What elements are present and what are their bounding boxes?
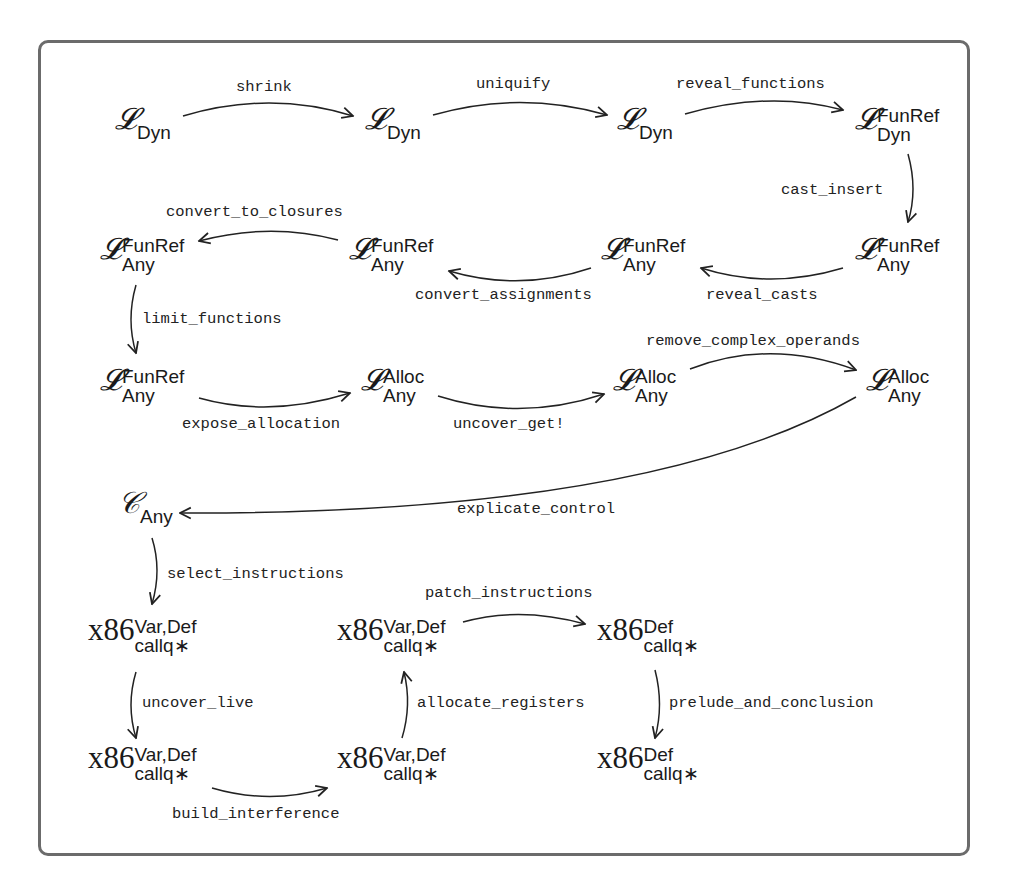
node-superscript: FunRef	[877, 106, 939, 125]
node-superscript: FunRef	[122, 367, 184, 386]
node-L-funref-any-closures: 𝓛FunRefAny	[100, 234, 184, 274]
edge-convert-assignments	[449, 268, 591, 281]
label-expose-allocation: expose_allocation	[182, 415, 340, 433]
label-limit-functions: limit_functions	[142, 310, 282, 328]
node-subscript: Any	[140, 507, 173, 526]
node-base: 𝓛	[115, 101, 137, 136]
node-subscript: callq∗	[135, 764, 197, 783]
edge-allocate-registers	[402, 672, 408, 738]
node-subscript: callq∗	[384, 764, 446, 783]
node-base: 𝓛	[866, 362, 888, 397]
node-x86-def-final: x86Defcallq∗	[597, 742, 699, 783]
edge-uncover-get	[438, 394, 604, 409]
node-L-alloc-any-1: 𝓛AllocAny	[361, 365, 424, 405]
node-superscript: FunRef	[371, 236, 433, 255]
node-base: x86	[88, 740, 135, 775]
node-x86-var-def-interference: x86Var,Defcallq∗	[337, 742, 445, 783]
node-superscript: Def	[644, 617, 699, 636]
edge-build-interference	[212, 788, 327, 797]
node-base: 𝓛	[613, 362, 635, 397]
edge-uncover-live	[131, 672, 136, 738]
edge-uniquify	[433, 103, 607, 116]
node-C-any: 𝒞Any	[118, 488, 173, 526]
label-prelude-and-conclusion: prelude_and_conclusion	[669, 694, 874, 712]
node-subscript: Any	[122, 386, 184, 405]
node-superscript: Def	[644, 745, 699, 764]
node-subscript: Any	[122, 255, 184, 274]
node-base: x86	[597, 740, 644, 775]
node-subscript: Any	[623, 255, 685, 274]
node-base: 𝓛	[100, 362, 122, 397]
node-subscript: callq∗	[644, 764, 699, 783]
node-superscript: FunRef	[877, 236, 939, 255]
node-superscript: FunRef	[623, 236, 685, 255]
node-base: 𝓛	[855, 231, 877, 266]
node-superscript: Var,Def	[135, 745, 197, 764]
edge-remove-complex-operands	[690, 354, 856, 370]
node-base: 𝓛	[601, 231, 623, 266]
node-base: x86	[337, 612, 384, 647]
node-L-funref-any-assign: 𝓛FunRefAny	[349, 234, 433, 274]
node-subscript: Dyn	[639, 123, 673, 142]
node-subscript: Any	[635, 386, 676, 405]
node-subscript: Any	[383, 386, 424, 405]
node-L-funref-any-cast-insert: 𝓛FunRefAny	[855, 234, 939, 274]
edge-expose-allocation	[199, 393, 350, 407]
edge-limit-functions	[131, 285, 136, 353]
node-subscript: Dyn	[877, 125, 939, 144]
node-subscript: callq∗	[644, 636, 699, 655]
node-L-funref-dyn: 𝓛FunRefDyn	[855, 104, 939, 144]
node-x86-def-patched: x86Defcallq∗	[597, 614, 699, 655]
node-subscript: callq∗	[135, 636, 197, 655]
edge-select-instructions	[152, 538, 157, 604]
node-base: x86	[597, 612, 644, 647]
node-x86-var-def-live: x86Var,Defcallq∗	[88, 742, 196, 783]
label-cast-insert: cast_insert	[781, 181, 883, 199]
edge-prelude-and-conclusion	[655, 670, 660, 738]
label-remove-complex-operands: remove_complex_operands	[646, 332, 860, 350]
node-subscript: Any	[371, 255, 433, 274]
node-superscript: FunRef	[122, 236, 184, 255]
edge-shrink	[183, 103, 353, 116]
label-uncover-live: uncover_live	[142, 694, 254, 712]
node-superscript: Alloc	[888, 367, 929, 386]
node-subscript: Dyn	[137, 123, 171, 142]
node-L-alloc-any-3: 𝓛AllocAny	[866, 365, 929, 405]
node-L-funref-any-limit: 𝓛FunRefAny	[100, 365, 184, 405]
node-superscript: Var,Def	[135, 617, 197, 636]
node-subscript: Dyn	[387, 123, 421, 142]
node-base: x86	[88, 612, 135, 647]
node-L-dyn-1: 𝓛Dyn	[115, 104, 171, 142]
node-base: 𝓛	[855, 101, 877, 136]
label-reveal-functions: reveal_functions	[676, 75, 825, 93]
node-L-funref-any-casts: 𝓛FunRefAny	[601, 234, 685, 274]
node-subscript: Any	[877, 255, 939, 274]
label-uniquify: uniquify	[476, 75, 550, 93]
label-explicate-control: explicate_control	[457, 500, 615, 518]
node-L-dyn-2: 𝓛Dyn	[365, 104, 421, 142]
edge-cast-insert	[908, 154, 913, 222]
label-convert-to-closures: convert_to_closures	[166, 203, 343, 221]
node-base: 𝒞	[118, 485, 140, 520]
node-base: 𝓛	[100, 231, 122, 266]
node-superscript: Alloc	[635, 367, 676, 386]
node-superscript: Var,Def	[384, 745, 446, 764]
node-base: 𝓛	[361, 362, 383, 397]
node-L-alloc-any-2: 𝓛AllocAny	[613, 365, 676, 405]
node-superscript: Alloc	[383, 367, 424, 386]
label-select-instructions: select_instructions	[167, 565, 344, 583]
edge-reveal-functions	[685, 101, 843, 114]
label-allocate-registers: allocate_registers	[417, 694, 584, 712]
edge-patch-instructions	[463, 614, 585, 624]
label-shrink: shrink	[236, 78, 292, 96]
node-base: 𝓛	[365, 101, 387, 136]
node-base: 𝓛	[349, 231, 371, 266]
node-subscript: Any	[888, 386, 929, 405]
edge-convert-to-closures	[199, 231, 338, 241]
label-patch-instructions: patch_instructions	[425, 584, 592, 602]
node-base: x86	[337, 740, 384, 775]
label-uncover-get: uncover_get!	[453, 415, 565, 433]
edge-reveal-casts	[701, 268, 843, 279]
label-build-interference: build_interference	[172, 805, 339, 823]
node-x86-var-def-select: x86Var,Defcallq∗	[88, 614, 196, 655]
